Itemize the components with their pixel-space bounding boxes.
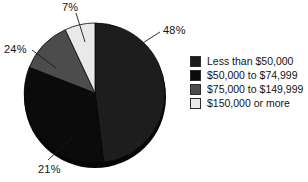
legend-swatch-icon: [190, 70, 201, 81]
pie-label-24: 24%: [4, 43, 27, 55]
legend-item-50000-to-74999[interactable]: $50,000 to $74,999: [190, 68, 308, 82]
pie-label-21: 21%: [38, 163, 61, 175]
legend-item-label: $150,000 or more: [207, 97, 290, 110]
legend-item-label: Less than $50,000: [207, 55, 293, 68]
pie-chart-svg: [0, 0, 190, 182]
chart-legend: Less than $50,000 $50,000 to $74,999 $75…: [190, 54, 308, 110]
legend-item-label: $50,000 to $74,999: [207, 69, 298, 82]
pie-label-48: 48%: [163, 24, 186, 36]
legend-swatch-icon: [190, 56, 201, 67]
legend-swatch-icon: [190, 84, 201, 95]
pie-slices: [24, 23, 165, 163]
pie-slice-less-than-50000[interactable]: [95, 23, 165, 162]
pie-chart-area: 48% 24% 7% 21%: [0, 0, 190, 182]
legend-item-150000-or-more[interactable]: $150,000 or more: [190, 96, 308, 110]
legend-swatch-icon: [190, 98, 201, 109]
pie-chart-figure: 48% 24% 7% 21% Less than $50,000 $50,000…: [0, 0, 308, 182]
legend-item-less-than-50000[interactable]: Less than $50,000: [190, 54, 308, 68]
pie-label-7: 7%: [62, 1, 78, 13]
legend-item-label: $75,000 to $149,999: [207, 83, 303, 96]
legend-item-75000-to-149999[interactable]: $75,000 to $149,999: [190, 82, 308, 96]
